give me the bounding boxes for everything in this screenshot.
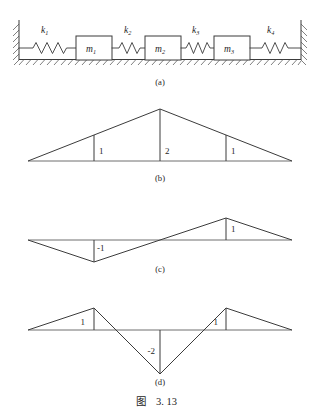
panel-b-caption: (b) <box>155 173 165 183</box>
panel-b-mode-shape-1: 1 2 1 (b) <box>28 109 292 183</box>
figure-caption-cn: 图 <box>136 395 146 407</box>
mass-m3-subscript: 3 <box>230 48 234 55</box>
panel-b-amplitude-1: 1 <box>99 146 104 156</box>
panel-d-amplitude-1: 1 <box>81 317 86 327</box>
spring-k2: k2 <box>112 25 145 54</box>
panel-d-caption: (d) <box>155 377 165 387</box>
spring-k2-label: k2 <box>124 25 131 36</box>
panel-c-amplitude-1: -1 <box>97 243 105 253</box>
panel-b-amplitude-2: 2 <box>165 146 170 156</box>
mass-m3: m3 <box>214 36 250 60</box>
panel-d-amplitude-3: 1 <box>214 317 219 327</box>
spring-k3-subscript: 3 <box>195 29 199 36</box>
spring-k4-label: k4 <box>267 25 274 36</box>
panel-d-mode-shape-3: 1 -2 1 (d) <box>28 308 292 387</box>
figure-caption: 图 3. 13 <box>136 395 177 407</box>
spring-k4: k4 <box>250 25 301 54</box>
spring-k2-subscript: 2 <box>128 29 131 36</box>
figure-3-13: k1 m1 k2 m2 k3 m3 k4 <box>0 0 320 418</box>
figure-caption-number: 3. 13 <box>156 396 177 407</box>
spring-k3: k3 <box>181 25 214 54</box>
mass-m2-subscript: 2 <box>162 48 165 55</box>
right-wall <box>301 20 307 65</box>
mass-m1-subscript: 1 <box>93 48 96 55</box>
panel-a-spring-mass-system: k1 m1 k2 m2 k3 m3 k4 <box>13 20 307 87</box>
panel-a-caption: (a) <box>155 77 165 87</box>
panel-d-amplitude-2: -2 <box>148 346 156 356</box>
panel-b-amplitude-3: 1 <box>231 146 236 156</box>
panel-c-caption: (c) <box>155 264 165 274</box>
panel-c-mode-shape-2: -1 1 (c) <box>28 218 292 274</box>
mass-m1: m1 <box>76 36 112 60</box>
spring-k4-subscript: 4 <box>271 29 274 36</box>
figure-container: k1 m1 k2 m2 k3 m3 k4 <box>0 0 320 418</box>
spring-k1-subscript: 1 <box>45 29 48 36</box>
left-wall <box>13 20 19 65</box>
mass-m2: m2 <box>145 36 181 60</box>
spring-k3-label: k3 <box>192 25 199 36</box>
spring-k1: k1 <box>19 25 76 54</box>
spring-k1-label: k1 <box>41 25 48 36</box>
panel-c-amplitude-3: 1 <box>231 224 236 234</box>
